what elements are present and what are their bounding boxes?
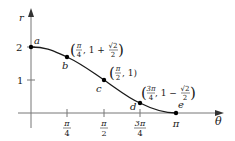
- paren-open: (: [70, 41, 76, 59]
- ann-c-rest: , 1): [122, 68, 137, 78]
- point-b: [65, 55, 69, 59]
- ann-b-sqrt-num: √2: [109, 42, 118, 50]
- ann-c-frac-num: π: [115, 65, 121, 73]
- annotation-b: ( π 4 , 1 + √2 2 ): [70, 41, 124, 59]
- point-label-d: d: [130, 101, 136, 112]
- point-label-c: c: [96, 83, 102, 94]
- polar-graph-plot: θ r 2 1 π 4 π 2 3π 4 π a b c d: [0, 0, 235, 141]
- x-axis-label: θ: [215, 115, 222, 128]
- x-tick-label-3pi-over-4-num: 3π: [135, 119, 146, 128]
- annotation-c: ( π 2 , 1): [109, 64, 137, 82]
- ann-b-frac-den: 4: [77, 51, 82, 59]
- x-tick-label-pi-over-4-num: π: [63, 119, 70, 128]
- x-tick-label-pi-over-2-num: π: [100, 119, 107, 128]
- x-tick-label-pi: π: [172, 118, 180, 129]
- ann-c-frac-den: 2: [116, 74, 120, 82]
- ann-d-sqrt-den: 2: [183, 94, 187, 102]
- ann-b-sqrt-den: 2: [111, 51, 115, 59]
- ann-b-frac-num: π: [76, 42, 82, 50]
- point-label-b: b: [62, 60, 68, 71]
- points: a b c d e: [29, 35, 184, 115]
- axes: θ r: [18, 8, 224, 128]
- ann-d-sqrt-num: √2: [181, 85, 190, 93]
- x-tick-label-pi-over-4-den: 4: [64, 129, 69, 138]
- point-c: [102, 78, 106, 82]
- ann-d-frac-den: 4: [149, 94, 154, 102]
- y-tick-label-1: 1: [17, 75, 23, 86]
- point-a: [29, 45, 33, 49]
- point-label-a: a: [34, 35, 40, 46]
- paren-close: ): [118, 41, 124, 59]
- x-tick-label-3pi-over-4-den: 4: [137, 129, 142, 138]
- point-e: [174, 111, 178, 115]
- x-tick-label-pi-over-2-den: 2: [101, 129, 106, 138]
- ann-b-mid: , 1 +: [83, 45, 105, 55]
- paren-close: ): [190, 84, 196, 102]
- ann-d-mid: , 1 −: [155, 88, 177, 98]
- y-axis-label: r: [19, 12, 25, 23]
- paren-open: (: [109, 64, 115, 82]
- y-axis-arrow-icon: [28, 8, 34, 17]
- annotation-d: ( 3π 4 , 1 − √2 2 ): [141, 84, 196, 102]
- y-tick-label-2: 2: [16, 42, 22, 53]
